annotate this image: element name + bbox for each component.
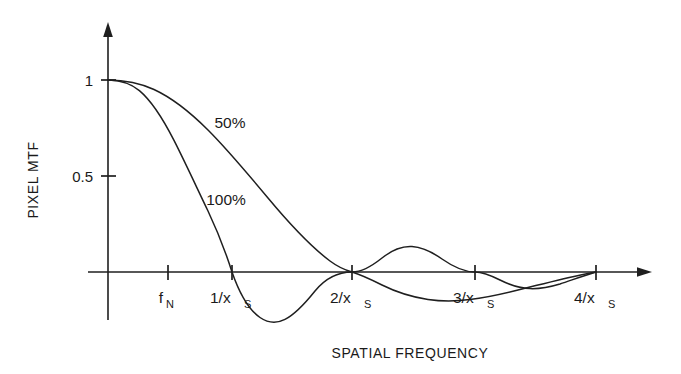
curve-label-100-percent: 100%: [206, 191, 246, 208]
x-tick-label-4xs-base: 4/x: [574, 289, 595, 306]
x-tick-label-3xs-sub: S: [487, 298, 494, 310]
x-tick-label-3xs-base: 3/x: [453, 289, 474, 306]
x-tick-label-1xs: 1/x S: [210, 289, 251, 310]
x-tick-label-2xs-sub: S: [364, 298, 371, 310]
curves-group: [108, 80, 596, 322]
x-axis-title: SPATIAL FREQUENCY: [332, 345, 489, 361]
x-tick-label-1xs-base: 1/x: [210, 289, 231, 306]
y-axis-title: PIXEL MTF: [25, 141, 41, 218]
mtf-chart: 1 0.5 PIXEL MTF f N 1/x S 2/x S 3/x S: [0, 0, 681, 374]
x-tick-label-3xs: 3/x S: [453, 289, 494, 310]
figure-root: 1 0.5 PIXEL MTF f N 1/x S 2/x S 3/x S: [0, 0, 681, 374]
curve-label-50-percent: 50%: [214, 114, 245, 131]
x-tick-label-fn: f N: [159, 289, 174, 310]
x-tick-label-4xs: 4/x S: [574, 289, 615, 310]
x-axis-arrow-icon: [637, 267, 652, 277]
x-tick-label-2xs: 2/x S: [330, 289, 371, 310]
x-tick-label-1xs-sub: S: [244, 298, 251, 310]
x-tick-label-fn-sub: N: [166, 298, 174, 310]
curve-100-percent: [108, 80, 596, 322]
labels-group: 1 0.5 PIXEL MTF f N 1/x S 2/x S 3/x S: [25, 72, 615, 361]
x-tick-label-4xs-sub: S: [608, 298, 615, 310]
x-tick-label-2xs-base: 2/x: [330, 289, 351, 306]
y-tick-label-1: 1: [85, 72, 93, 89]
y-axis-arrow-icon: [103, 22, 113, 37]
y-tick-label-half: 0.5: [72, 168, 93, 185]
x-tick-label-fn-base: f: [159, 289, 164, 306]
axes-group: [88, 22, 652, 320]
